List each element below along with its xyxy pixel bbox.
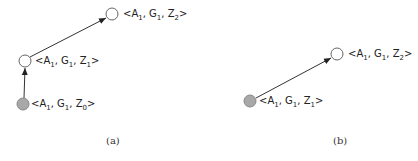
node-b-z2	[331, 48, 343, 60]
caption-b: (b)	[333, 135, 347, 146]
node-b-z1	[244, 95, 256, 107]
node-a-z2	[106, 8, 118, 20]
edge-b-z1-z2	[256, 58, 331, 98]
diagram-canvas	[0, 0, 418, 161]
edge-a-z1-z2	[30, 18, 106, 57]
label-a-z2: <A1, G1, Z2>	[123, 8, 187, 24]
node-a-z0	[17, 98, 29, 110]
caption-a: (a)	[106, 135, 120, 146]
node-a-z1	[19, 55, 31, 67]
label-b-z1: <A1, G1, Z1>	[259, 95, 323, 111]
label-a-z1: <A1, G1, Z1>	[35, 55, 99, 71]
label-a-z0: <A1, G1, Z0>	[31, 98, 95, 114]
edge-a-z0-z1	[24, 68, 25, 98]
label-b-z2: <A1, G1, Z2>	[348, 48, 412, 64]
